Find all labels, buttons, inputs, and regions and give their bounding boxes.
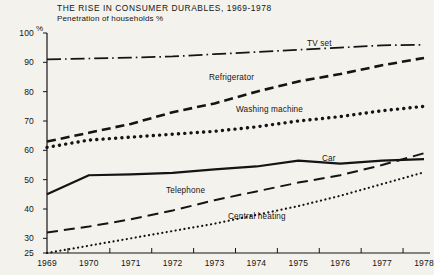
series-label-central-heating: Central heating (228, 212, 286, 221)
series-label-car: Car (322, 154, 336, 163)
plot-area (0, 0, 434, 275)
series-line-tv-set (47, 45, 424, 60)
series-line-car (47, 159, 424, 194)
chart-container: THE RISE IN CONSUMER DURABLES, 1969-1978… (0, 0, 434, 275)
series-label-telephone: Telephone (166, 186, 205, 195)
series-label-refrigerator: Refrigerator (209, 73, 254, 82)
series-label-washing-machine: Washing machine (236, 105, 303, 114)
series-label-tv-set: TV set (307, 39, 332, 48)
